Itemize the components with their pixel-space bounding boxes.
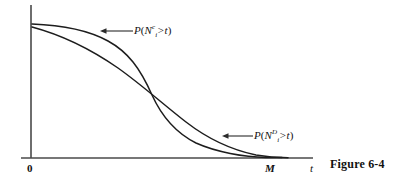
upper-annotation-relation: > — [157, 24, 164, 36]
lower-annotation-close-paren: ) — [290, 129, 294, 141]
curve-upper-sigmoid — [32, 24, 282, 158]
upper-annotation-close-paren: ) — [168, 24, 172, 36]
x-axis-origin-label: 0 — [27, 163, 33, 174]
upper-curve-annotation: P(Nci>t) — [134, 24, 172, 36]
upper-callout-arrowhead — [100, 28, 107, 33]
lower-callout-arrowhead — [222, 133, 229, 138]
curve-lower-convex — [32, 27, 288, 158]
lower-annotation-variable: N — [265, 129, 272, 141]
lower-annotation-relation: > — [279, 129, 286, 141]
x-axis-marker-label-m: M — [265, 163, 275, 174]
figure-caption: Figure 6-4 — [330, 158, 385, 171]
upper-annotation-variable: N — [145, 24, 152, 36]
x-axis-label-t: t — [310, 163, 313, 174]
lower-annotation-prefix: P — [254, 129, 261, 141]
lower-curve-annotation: P(NDi>t) — [254, 129, 293, 141]
upper-annotation-prefix: P — [134, 24, 141, 36]
figure-container: 0 M t P(Nci>t) P(NDi>t) Figure 6-4 — [0, 0, 408, 194]
